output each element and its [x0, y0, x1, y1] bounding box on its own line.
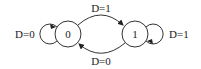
transition-arrow — [79, 43, 125, 53]
state-diagram: D=0 0 D=1 D=0 1 D=1 — [0, 0, 201, 69]
transition-label: D=1 — [91, 2, 111, 14]
transition-1-to-1: D=1 — [146, 24, 189, 44]
transition-label: D=0 — [91, 55, 111, 67]
transition-label: D=0 — [15, 28, 35, 40]
transition-0-to-0: D=0 — [15, 24, 57, 44]
transition-arrow — [78, 15, 123, 25]
state-label: 1 — [132, 28, 138, 40]
state-1: 1 — [122, 21, 148, 47]
state-label: 0 — [65, 28, 71, 40]
state-0: 0 — [55, 21, 81, 47]
transition-label: D=1 — [169, 28, 189, 40]
transition-0-to-1: D=1 — [78, 2, 123, 25]
transition-1-to-0: D=0 — [79, 43, 125, 67]
